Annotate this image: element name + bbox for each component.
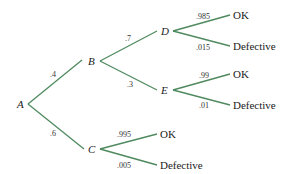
edge-a-c bbox=[28, 104, 84, 149]
prob-c-ok: .995 bbox=[117, 130, 131, 139]
node-e: E bbox=[160, 84, 168, 96]
leaf-e-ok: OK bbox=[233, 68, 249, 80]
leaf-c-defective: Defective bbox=[160, 159, 203, 171]
probability-tree-diagram: A B C D E .4 .6 .7 .3 .985 .015 .99 .01 … bbox=[0, 0, 288, 174]
prob-a-b: .4 bbox=[50, 70, 56, 79]
prob-b-d: .7 bbox=[125, 34, 131, 43]
leaf-d-defective: Defective bbox=[233, 40, 276, 52]
node-d: D bbox=[160, 25, 169, 37]
prob-c-defective: .005 bbox=[117, 161, 131, 170]
leaf-c-ok: OK bbox=[160, 128, 176, 140]
node-b: B bbox=[88, 55, 95, 67]
prob-e-ok: .99 bbox=[199, 71, 209, 80]
prob-a-c: .6 bbox=[50, 129, 56, 138]
node-c: C bbox=[88, 143, 96, 155]
leaf-d-ok: OK bbox=[233, 9, 249, 21]
prob-b-e: .3 bbox=[127, 80, 133, 89]
prob-d-ok: .985 bbox=[196, 12, 210, 21]
prob-e-defective: .01 bbox=[199, 101, 209, 110]
prob-d-defective: .015 bbox=[196, 43, 210, 52]
edge-a-b bbox=[28, 60, 82, 104]
node-a: A bbox=[16, 98, 24, 110]
leaf-e-defective: Defective bbox=[233, 99, 276, 111]
